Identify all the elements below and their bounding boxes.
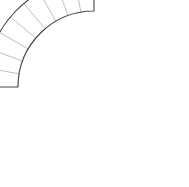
diagram-root (0, 0, 189, 187)
curved-stair-sector-figure (0, 0, 189, 187)
